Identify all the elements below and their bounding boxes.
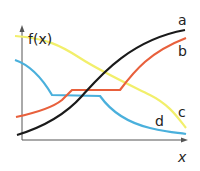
x-axis-arrow-icon [181, 138, 188, 143]
y-axis-label: f(x) [28, 31, 52, 47]
function-plot: f(x) x a b c d [0, 0, 200, 171]
curve-label-c: c [178, 104, 186, 120]
curve-label-b: b [178, 43, 187, 59]
x-axis-label: x [177, 149, 187, 165]
curve-label-a: a [178, 12, 187, 28]
y-axis-arrow-icon [20, 25, 25, 32]
curve-b [16, 38, 186, 117]
curve-label-d: d [155, 113, 164, 129]
